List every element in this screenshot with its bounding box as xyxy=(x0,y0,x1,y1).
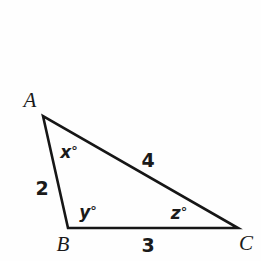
vertex-label-a: A xyxy=(24,90,37,111)
angle-variable-z: z xyxy=(171,203,181,223)
angle-label-x: x° xyxy=(60,144,77,161)
vertex-label-c: C xyxy=(239,233,253,254)
degree-symbol-z: ° xyxy=(181,204,188,219)
degree-symbol-x: ° xyxy=(71,143,78,158)
angle-variable-y: y xyxy=(79,202,90,222)
angle-label-y: y° xyxy=(79,204,97,221)
side-label-bc: 3 xyxy=(141,236,154,255)
angle-variable-x: x xyxy=(60,142,71,162)
triangle-shape xyxy=(0,0,261,261)
geometry-figure: A B C 2 4 3 x° y° z° xyxy=(0,0,261,261)
angle-label-z: z° xyxy=(171,205,187,222)
vertex-label-b: B xyxy=(57,234,70,255)
triangle-outline xyxy=(43,116,238,228)
degree-symbol-y: ° xyxy=(90,203,97,218)
side-label-ac: 4 xyxy=(141,151,154,170)
side-label-ab: 2 xyxy=(35,179,48,198)
